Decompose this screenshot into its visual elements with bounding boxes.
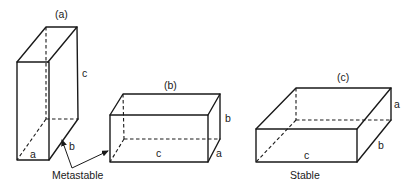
diagram-canvas: [0, 0, 409, 186]
panel-label-c: (c): [337, 72, 349, 83]
dimension-label-b-depth: a: [216, 148, 222, 159]
dimension-label-c-width: c: [304, 150, 309, 161]
caption-metastable: Metastable: [52, 170, 103, 181]
box-c: [256, 88, 391, 162]
panel-label-a: (a): [55, 9, 68, 20]
panel-label-b: (b): [164, 80, 177, 91]
dimension-label-c-depth: b: [378, 140, 384, 151]
dimension-label-c-vertical: a: [394, 99, 400, 110]
dimension-label-b-vertical: b: [225, 113, 231, 124]
dimension-label-b-width: c: [156, 148, 161, 159]
crystal-orientation-diagram: (a) c b a (b) b a c (c) a b c Metastable…: [0, 0, 409, 186]
dimension-label-a-depth: b: [69, 141, 75, 152]
dimension-label-a-vertical: c: [82, 68, 87, 79]
box-b: [110, 94, 220, 162]
dimension-label-a-width: a: [30, 149, 36, 160]
caption-stable: Stable: [290, 170, 320, 181]
